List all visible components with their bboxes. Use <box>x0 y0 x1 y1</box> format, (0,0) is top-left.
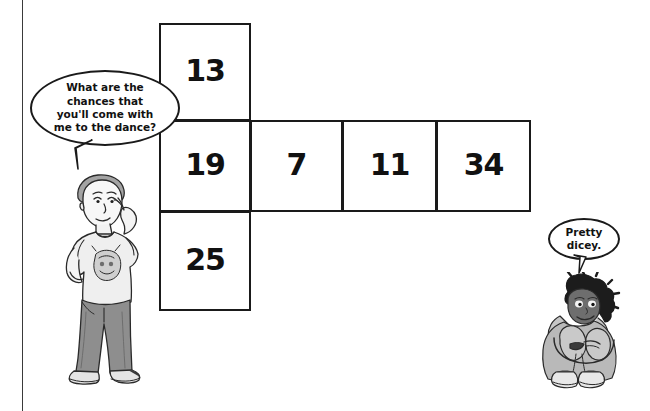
grid-cell-11[interactable]: 11 <box>342 120 437 212</box>
boy-face <box>83 180 122 227</box>
grid-cell-value: 11 <box>370 150 410 180</box>
speech-line: you'll come with <box>54 108 156 121</box>
girl-shoe-left <box>552 372 578 388</box>
boy-raised-arm <box>121 207 137 234</box>
illustration-page: 13 19 25 7 11 34 What are the chances th… <box>0 0 650 411</box>
grid-cell-34[interactable]: 34 <box>436 120 531 212</box>
speech-line: What are the <box>54 81 156 94</box>
speech-bubble-boy: What are the chances that you'll come wi… <box>30 70 180 146</box>
grid-cell-value: 7 <box>287 150 307 180</box>
standing-boy-illustration <box>52 172 164 390</box>
grid-cell-value: 13 <box>185 56 225 86</box>
speech-bubble-girl-text: Pretty dicey. <box>566 226 603 252</box>
girl-face <box>568 289 600 324</box>
girl-shoe-right <box>578 372 604 388</box>
speech-bubble-boy-text: What are the chances that you'll come wi… <box>44 81 166 135</box>
speech-line: chances that <box>54 95 156 108</box>
page-margin-rule <box>22 0 23 411</box>
grid-cell-value: 25 <box>185 245 225 275</box>
sitting-girl-illustration <box>524 272 636 398</box>
speech-line: me to the dance? <box>54 121 156 134</box>
speech-bubble-boy-tail <box>62 138 108 174</box>
grid-cell-25[interactable]: 25 <box>159 211 251 311</box>
speech-line: dicey. <box>566 239 603 252</box>
grid-cell-value: 19 <box>185 150 225 180</box>
speech-line: Pretty <box>566 226 603 239</box>
grid-cell-value: 34 <box>464 150 504 180</box>
grid-cell-19[interactable]: 19 <box>159 120 251 212</box>
grid-cell-7[interactable]: 7 <box>250 120 343 212</box>
